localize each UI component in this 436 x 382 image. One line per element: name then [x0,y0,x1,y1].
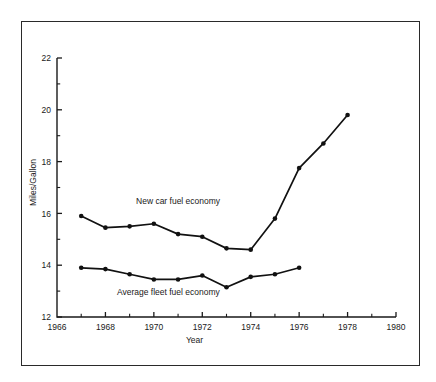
x-tick-label: 1970 [144,322,163,332]
series-label-1: Average fleet fuel economy [117,287,221,297]
y-tick-label: 22 [42,53,52,63]
data-point [176,232,181,237]
y-tick-label: 20 [42,105,52,115]
data-point [127,224,132,229]
x-axis-title: Year [186,335,203,345]
y-tick-label: 18 [42,157,52,167]
x-tick-label: 1976 [290,322,309,332]
y-tick-label: 14 [42,260,52,270]
data-point [248,275,253,280]
axis-ticks [57,58,396,317]
series-annotations: New car fuel economyAverage fleet fuel e… [117,196,221,297]
y-axis-title: Miles/Gallon [28,159,38,206]
data-point [345,113,350,118]
data-point [176,277,181,282]
axis-spine [57,58,396,317]
data-point [224,246,229,251]
data-point [273,272,278,277]
series-line-1 [81,268,299,287]
axis-tick-labels: 1214161820221966196819701972197419761978… [42,53,406,331]
figure-canvas: 1214161820221966196819701972197419761978… [0,0,436,382]
data-point [248,247,253,252]
x-tick-label: 1966 [48,322,67,332]
data-point [200,234,205,239]
series-line-0 [81,115,347,250]
data-point [152,277,157,282]
axes [57,58,396,317]
x-tick-label: 1968 [96,322,115,332]
data-point [200,273,205,278]
data-point [273,216,278,221]
x-tick-label: 1974 [241,322,260,332]
x-tick-label: 1980 [387,322,406,332]
line-chart: 1214161820221966196819701972197419761978… [0,0,436,382]
data-point [127,272,132,277]
data-point [297,265,302,270]
x-tick-label: 1972 [193,322,212,332]
data-point [103,267,108,272]
data-point [79,265,84,270]
data-point [224,285,229,290]
series-label-0: New car fuel economy [136,196,221,206]
data-point [297,166,302,171]
data-point [152,221,157,226]
data-point [103,225,108,230]
data-point [79,214,84,219]
y-tick-label: 16 [42,209,52,219]
data-point [321,141,326,146]
x-tick-label: 1978 [338,322,357,332]
